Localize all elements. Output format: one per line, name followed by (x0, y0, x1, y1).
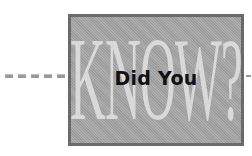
dash (44, 74, 52, 78)
did-you-know-callout-box: KNOW? Did You (68, 14, 244, 146)
dashed-leader-tail (246, 75, 251, 77)
dash (57, 74, 65, 78)
dash (18, 74, 26, 78)
dashed-leader-line (5, 74, 65, 78)
dash (5, 74, 13, 78)
dash (31, 74, 39, 78)
headline-did-you: Did You (93, 67, 219, 89)
